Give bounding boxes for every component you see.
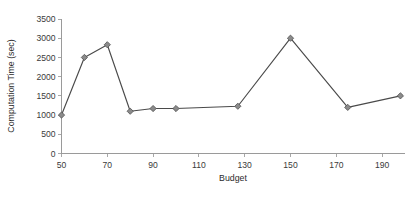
- y-tick-label: 1500: [36, 91, 55, 101]
- x-axis-tick-labels: 507090110130150170190: [57, 160, 390, 170]
- x-tick-label: 90: [148, 160, 158, 170]
- y-axis-title: Computation Time (sec): [6, 39, 16, 132]
- data-point-marker: [397, 93, 403, 99]
- x-tick-label: 70: [103, 160, 113, 170]
- y-tick-label: 1000: [36, 110, 55, 120]
- x-tick-label: 110: [192, 160, 206, 170]
- y-tick-label: 3000: [36, 33, 55, 43]
- data-point-marker: [104, 42, 110, 48]
- y-tick-label: 2000: [36, 72, 55, 82]
- y-tick-label: 2500: [36, 53, 55, 63]
- x-tick-label: 130: [238, 160, 253, 170]
- y-tick-label: 500: [41, 129, 56, 139]
- y-tick-label: 0: [51, 149, 56, 159]
- x-axis-tick-marks: [62, 154, 383, 158]
- x-axis-title: Budget: [219, 173, 247, 183]
- data-point-marker: [81, 54, 87, 60]
- x-tick-label: 150: [283, 160, 298, 170]
- line-chart: 0500100015002000250030003500 50709011013…: [0, 0, 410, 199]
- x-tick-label: 50: [57, 160, 67, 170]
- y-axis-tick-marks: [58, 19, 62, 154]
- data-point-markers: [58, 35, 403, 118]
- data-point-marker: [127, 108, 133, 114]
- chart-canvas: 0500100015002000250030003500 50709011013…: [0, 0, 410, 199]
- data-point-marker: [173, 105, 179, 111]
- x-tick-label: 170: [329, 160, 344, 170]
- data-point-marker: [58, 112, 64, 118]
- data-point-marker: [150, 105, 156, 111]
- x-tick-label: 190: [375, 160, 390, 170]
- y-tick-label: 3500: [36, 14, 55, 24]
- data-series-line: [62, 38, 401, 115]
- y-axis-tick-labels: 0500100015002000250030003500: [36, 14, 55, 159]
